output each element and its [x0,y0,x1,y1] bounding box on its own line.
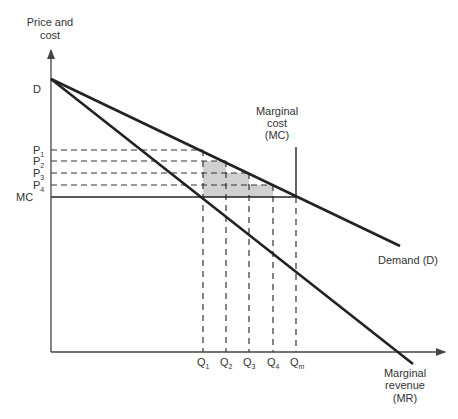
mc-curve-label-line1: Marginal [256,105,298,117]
marginal-revenue-curve [51,79,413,364]
mr-curve-label: Marginal revenue (MR) [384,367,426,404]
shaded-block-3 [249,185,273,197]
y-axis-label-line1: Price and [27,16,73,28]
economics-diagram: Price and cost D P1 P2 P3 P4 MC Q1 Q2 Q3… [0,0,458,419]
mr-curve-label-line3: (MR) [393,392,417,404]
q1-label: Q1 [197,356,210,370]
demand-curve-label: Demand (D) [378,254,438,266]
mr-curve-label-line1: Marginal [384,367,426,379]
q3-label: Q3 [243,356,256,370]
mr-curve-label-line2: revenue [385,379,425,391]
q4-label: Q4 [267,356,280,370]
price-labels: P1 P2 P3 P4 [33,144,44,193]
d-intercept-label: D [33,83,41,95]
mc-curve-label-line2: cost [267,117,287,129]
p4-label: P4 [33,179,44,193]
quantity-labels: Q1 Q2 Q3 Q4 Qm [197,356,305,370]
shaded-block-1 [203,161,226,197]
mc-curve-label-line3: (MC) [265,129,289,141]
mc-curve-label: Marginal cost (MC) [256,105,298,141]
y-axis-label-line2: cost [40,29,60,41]
qm-label: Qm [290,356,305,370]
q2-label: Q2 [220,356,233,370]
mc-level-label: MC [16,191,33,203]
